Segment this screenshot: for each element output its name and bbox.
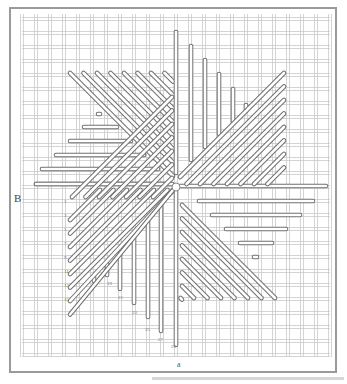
divider [152,377,344,380]
center-hole [172,183,180,191]
figure-caption: a [177,360,181,369]
svg-text:19: 19 [107,281,113,286]
svg-text:23: 23 [132,310,138,315]
stitch-diagram: 13579111315192123252729Ba [0,0,347,384]
svg-text:21: 21 [118,295,124,300]
svg-text:27: 27 [158,337,164,342]
side-label: B [14,192,21,204]
svg-text:15: 15 [64,297,70,302]
svg-text:25: 25 [145,327,151,332]
svg-text:29: 29 [171,344,177,349]
svg-text:13: 13 [64,283,70,288]
svg-text:11: 11 [64,269,69,274]
